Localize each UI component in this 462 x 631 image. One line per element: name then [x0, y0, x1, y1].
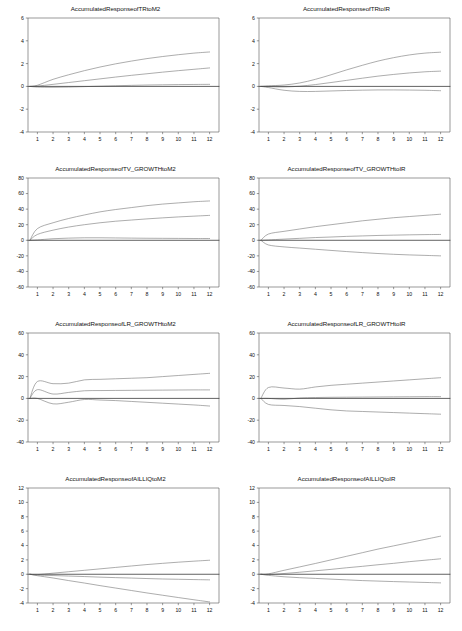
x-tick-label: 12: [207, 446, 213, 452]
x-tick-label: 1: [36, 446, 39, 452]
chart-panel: AccumulatedResponseofLR_GROWTHtoM2-40-20…: [0, 315, 231, 470]
chart-panel: AccumulatedResponseofTV_GROWTHtoIR-60-40…: [231, 160, 462, 315]
x-tick-label: 9: [161, 136, 164, 142]
x-tick-label: 7: [130, 607, 133, 613]
x-tick-label: 9: [161, 607, 164, 613]
y-tick-label: 12: [18, 485, 24, 491]
chart-title: AccumulatedResponseofTRtoIR: [231, 4, 462, 13]
y-tick-label: -60: [248, 284, 256, 290]
series-line-lower-ci: [30, 398, 210, 406]
plot-area: -4-2024681012123456789101112: [0, 484, 231, 623]
y-tick-label: 0: [252, 395, 255, 401]
y-tick-label: 4: [21, 542, 24, 548]
impulse-response-chart-grid: AccumulatedResponseofTRtoM2-4-2024612345…: [0, 0, 462, 631]
plot-area: -60-40-20020406080123456789101112: [0, 174, 231, 307]
x-tick-label: 2: [52, 446, 55, 452]
y-tick-label: 60: [249, 330, 255, 336]
plot-area: -4-2024681012123456789101112: [231, 484, 462, 623]
x-tick-label: 4: [314, 446, 317, 452]
y-tick-label: 40: [18, 352, 24, 358]
x-tick-label: 7: [130, 291, 133, 297]
plot-frame: [259, 488, 450, 603]
y-tick-label: 80: [18, 175, 24, 181]
x-tick-label: 9: [392, 136, 395, 142]
y-tick-label: 0: [252, 237, 255, 243]
x-tick-label: 10: [175, 446, 181, 452]
x-tick-label: 10: [406, 446, 412, 452]
y-tick-label: 2: [21, 557, 24, 563]
y-tick-label: 10: [249, 499, 255, 505]
x-tick-label: 3: [67, 607, 70, 613]
chart-panel: AccumulatedResponseofTRtoIR-4-2024612345…: [231, 0, 462, 160]
y-tick-label: 6: [21, 15, 24, 21]
y-tick-label: 80: [249, 175, 255, 181]
plot-frame: [259, 333, 450, 442]
x-tick-label: 1: [36, 607, 39, 613]
x-tick-label: 2: [52, 291, 55, 297]
x-tick-label: 7: [361, 136, 364, 142]
series-line-lower-ci: [30, 84, 210, 87]
x-tick-label: 8: [146, 136, 149, 142]
x-tick-label: 6: [345, 607, 348, 613]
plot-frame: [28, 333, 219, 442]
y-tick-label: -2: [19, 586, 24, 592]
x-tick-label: 1: [36, 136, 39, 142]
y-tick-label: -4: [19, 600, 24, 606]
chart-panel: AccumulatedResponseofTRtoM2-4-2024612345…: [0, 0, 231, 160]
x-tick-label: 11: [422, 291, 427, 297]
x-tick-label: 9: [161, 291, 164, 297]
chart-title: AccumulatedResponseofTV_GROWTHtoM2: [0, 164, 231, 173]
x-tick-label: 3: [298, 446, 301, 452]
x-tick-label: 8: [146, 607, 149, 613]
x-tick-label: 5: [99, 607, 102, 613]
y-tick-label: 2: [252, 61, 255, 67]
x-tick-label: 2: [283, 136, 286, 142]
x-tick-label: 5: [99, 136, 102, 142]
y-tick-label: 8: [21, 514, 24, 520]
chart-panel: AccumulatedResponseofLR_GROWTHtoIR-40-20…: [231, 315, 462, 470]
x-tick-label: 11: [422, 607, 427, 613]
plot-area: -40-200204060123456789101112: [0, 329, 231, 462]
chart-panel: AccumulatedResponseofAILLIQtoIR-4-202468…: [231, 470, 462, 631]
series-line-point-estimate: [30, 390, 210, 399]
x-tick-label: 2: [283, 607, 286, 613]
x-tick-label: 12: [438, 607, 444, 613]
x-tick-label: 6: [345, 446, 348, 452]
x-tick-label: 3: [298, 607, 301, 613]
y-tick-label: 0: [252, 83, 255, 89]
x-tick-label: 9: [392, 607, 395, 613]
x-tick-label: 4: [314, 291, 317, 297]
x-tick-label: 3: [67, 136, 70, 142]
x-tick-label: 4: [83, 446, 86, 452]
x-tick-label: 10: [175, 136, 181, 142]
x-tick-label: 6: [114, 446, 117, 452]
chart-panel: AccumulatedResponseofTV_GROWTHtoM2-60-40…: [0, 160, 231, 315]
chart-title: AccumulatedResponseofAILLIQtoM2: [0, 474, 231, 483]
x-tick-label: 5: [99, 446, 102, 452]
y-tick-label: -2: [250, 106, 255, 112]
x-tick-label: 1: [267, 136, 270, 142]
x-tick-label: 3: [67, 291, 70, 297]
x-tick-label: 5: [330, 446, 333, 452]
chart-title: AccumulatedResponseofAILLIQtoIR: [231, 474, 462, 483]
x-tick-label: 4: [83, 291, 86, 297]
plot-area: -60-40-20020406080123456789101112: [231, 174, 462, 307]
y-tick-label: 40: [249, 206, 255, 212]
series-line-point-estimate: [261, 397, 441, 400]
series-line-upper-ci: [261, 378, 441, 399]
y-tick-label: -40: [248, 439, 256, 445]
x-tick-label: 11: [191, 446, 196, 452]
y-tick-label: -20: [17, 253, 25, 259]
x-tick-label: 5: [99, 291, 102, 297]
x-tick-label: 12: [207, 607, 213, 613]
x-tick-label: 8: [377, 607, 380, 613]
x-tick-label: 6: [345, 136, 348, 142]
y-tick-label: 4: [252, 542, 255, 548]
series-line-upper-ci: [30, 560, 210, 574]
y-tick-label: 6: [252, 15, 255, 21]
y-tick-label: -40: [17, 439, 25, 445]
y-tick-label: 6: [21, 528, 24, 534]
y-tick-label: -2: [19, 106, 24, 112]
y-tick-label: -20: [248, 417, 256, 423]
x-tick-label: 9: [392, 446, 395, 452]
